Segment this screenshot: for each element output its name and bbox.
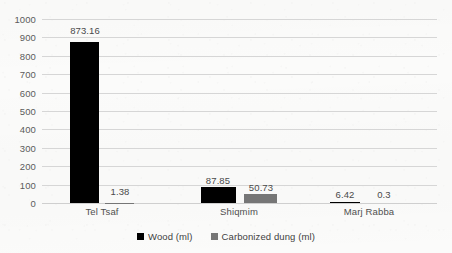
x-tick-marj-rabba: Marj Rabba [330,206,408,217]
axis-baseline-zero [42,203,437,204]
x-axis: Tel Tsaf Shiqmim Marj Rabba [42,206,437,224]
bar-wood-tel-tsaf [70,42,99,203]
bar-label-wood-shiqmim: 87.85 [199,175,237,186]
y-tick-300: 300 [0,143,36,154]
y-tick-200: 200 [0,161,36,172]
bar-wood-shiqmim [201,187,236,203]
gridline-200 [42,166,437,167]
gridline-600 [42,93,437,94]
gridline-300 [42,148,437,149]
square-marker-icon-wood [137,233,144,240]
y-tick-600: 600 [0,88,36,99]
y-tick-0: 0 [0,198,36,209]
bar-label-dung-shiqmim: 50.73 [242,182,280,193]
y-tick-400: 400 [0,124,36,135]
gridline-700 [42,74,437,75]
bar-wood-marj-rabba [330,202,360,203]
gridline-900 [42,37,437,38]
gridline-1000 [42,19,437,20]
square-marker-icon-dung [211,233,218,240]
legend-label-wood: Wood (ml) [148,231,193,242]
legend-item-wood: Wood (ml) [137,231,193,242]
plot-area: 873.16 1.38 87.85 50.73 6.42 0.3 [42,19,437,203]
gridline-800 [42,56,437,57]
y-tick-900: 900 [0,32,36,43]
legend-label-carbonized-dung: Carbonized dung (ml) [222,231,315,242]
y-tick-1000: 1000 [0,14,36,25]
bar-label-wood-tel-tsaf: 873.16 [66,25,104,36]
bar-dung-shiqmim [244,194,277,203]
legend-item-carbonized-dung: Carbonized dung (ml) [211,231,315,242]
bar-label-dung-tel-tsaf: 1.38 [101,186,139,197]
y-tick-800: 800 [0,51,36,62]
gridline-400 [42,129,437,130]
bar-label-dung-marj-rabba: 0.3 [365,189,403,200]
bar-chart: 873.16 1.38 87.85 50.73 6.42 0.3 1000 90… [0,0,452,253]
y-tick-700: 700 [0,69,36,80]
bar-label-wood-marj-rabba: 6.42 [326,189,364,200]
y-tick-500: 500 [0,106,36,117]
chart-legend: Wood (ml) Carbonized dung (ml) [0,231,452,242]
x-tick-tel-tsaf: Tel Tsaf [68,206,136,217]
x-tick-shiqmim: Shiqmim [205,206,273,217]
gridline-500 [42,111,437,112]
y-tick-100: 100 [0,180,36,191]
